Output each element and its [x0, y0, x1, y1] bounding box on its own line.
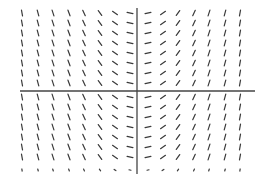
slope-segment [208, 114, 210, 120]
slope-segment [127, 52, 133, 53]
slope-segment [37, 60, 39, 66]
slope-segment [161, 155, 166, 158]
slope-segment [239, 20, 240, 26]
slope-segment [37, 40, 39, 46]
slope-segment [193, 60, 196, 65]
slope-segment [208, 124, 210, 130]
slope-segment [208, 50, 210, 56]
slope-segment [176, 135, 179, 140]
slope-segment [98, 115, 101, 120]
slope-segment [113, 41, 118, 44]
slope-segment [161, 115, 166, 118]
slope-segment [224, 104, 226, 110]
slope-segment [224, 70, 226, 76]
slope-segment [83, 60, 86, 65]
slope-segment [37, 114, 39, 120]
slope-segment [161, 135, 166, 138]
slope-segment [176, 155, 179, 160]
slope-segment [161, 71, 166, 74]
slope-segment [68, 60, 70, 66]
slope-segment [68, 154, 70, 160]
slope-segment [239, 94, 240, 100]
slope-segment [161, 145, 166, 148]
slope-segment [21, 70, 22, 76]
slope-segment [209, 169, 210, 171]
slope-segment [239, 80, 240, 86]
slope-segment [127, 106, 133, 107]
slope-segment [113, 145, 118, 148]
slope-segment [68, 40, 70, 46]
slope-segment [21, 124, 22, 130]
slope-segment [21, 30, 22, 36]
slope-segment [83, 144, 86, 149]
slope-segment [239, 124, 240, 130]
slope-segment [193, 50, 196, 55]
slope-segment [177, 169, 178, 171]
slope-segment [193, 40, 196, 45]
slope-segment [83, 134, 86, 139]
slope-segment [224, 40, 226, 46]
slope-segment [176, 145, 179, 150]
slope-segment [193, 104, 196, 109]
slope-segment [113, 61, 118, 64]
slope-segment [161, 105, 166, 108]
slope-segment [52, 94, 54, 100]
slope-segment [176, 51, 179, 56]
slope-segment [83, 50, 86, 55]
slope-segment [208, 70, 210, 76]
slope-segment [84, 169, 85, 171]
slope-segment [53, 169, 54, 171]
slope-segment [176, 81, 179, 86]
slope-segment [68, 70, 70, 76]
slope-segment [208, 40, 210, 46]
slope-segment [98, 81, 101, 86]
slope-segment [161, 81, 166, 84]
slope-segment [98, 95, 101, 100]
slope-segment [161, 41, 166, 44]
slope-segment [21, 60, 22, 66]
slope-segment [239, 114, 240, 120]
slope-segment [161, 61, 166, 64]
slope-segment [208, 104, 210, 110]
slope-segment [21, 50, 22, 56]
slope-segment [176, 11, 179, 16]
slope-segment [98, 145, 101, 150]
slope-segment [194, 169, 195, 171]
slope-segment [99, 169, 100, 171]
slope-segment [83, 114, 86, 119]
slope-segment [224, 60, 226, 66]
slope-segment [83, 30, 86, 35]
slope-segment [68, 104, 70, 110]
slope-segment [21, 104, 22, 110]
slope-segment [208, 10, 210, 16]
slope-segment [208, 144, 210, 150]
slope-segment [21, 114, 22, 120]
slope-segment [239, 144, 240, 150]
slope-segment [162, 169, 164, 170]
slope-segment [239, 154, 240, 160]
slope-segment [38, 169, 39, 171]
slope-segment [113, 11, 118, 14]
slope-segment [161, 95, 166, 98]
slope-segment [127, 42, 133, 43]
slope-segment [113, 115, 118, 118]
slope-segment [127, 116, 133, 117]
slope-segment [83, 94, 86, 99]
slope-segment [208, 154, 210, 160]
slope-segment [193, 70, 196, 75]
slope-segment [161, 51, 166, 54]
slope-segment [113, 31, 118, 34]
slope-segment [68, 134, 70, 140]
slope-segment [127, 32, 133, 33]
slope-segment [37, 134, 39, 140]
slope-segment [68, 50, 70, 56]
slope-segment [224, 20, 226, 26]
slope-segment [83, 154, 86, 159]
slope-segment [98, 21, 101, 26]
slope-segment [145, 106, 151, 107]
slope-segment [224, 134, 226, 140]
slope-segment [68, 94, 70, 100]
slope-segment [224, 154, 226, 160]
slope-segment [193, 144, 196, 149]
slope-segment [193, 10, 196, 15]
